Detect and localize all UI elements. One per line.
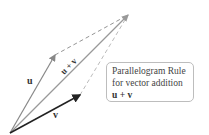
callout-box: Parallelogram Rule for vector addition u…	[106, 62, 194, 102]
label-sum: u + v	[58, 55, 79, 76]
callout-line-2: for vector addition	[112, 77, 193, 89]
dashed-edge-u-to-sum	[55, 15, 128, 55]
callout-line-3: u + v	[112, 89, 193, 101]
callout-line-1: Parallelogram Rule	[112, 65, 193, 77]
label-v: v	[53, 109, 58, 120]
label-u: u	[27, 75, 33, 86]
